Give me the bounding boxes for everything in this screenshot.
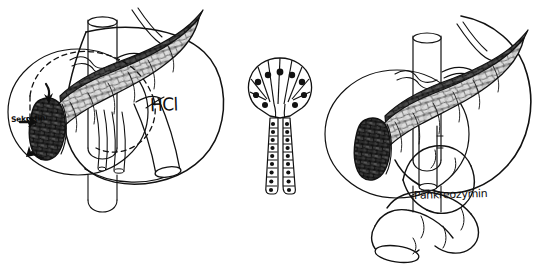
duct-tube-2 xyxy=(112,112,115,170)
nucleus xyxy=(253,92,259,98)
duct-nucleus xyxy=(286,162,290,166)
intestine-fold-2 xyxy=(451,158,456,176)
duct-nucleus xyxy=(285,138,289,142)
duct-branch-right xyxy=(283,118,295,194)
duct-nucleus xyxy=(269,188,273,192)
nucleus xyxy=(255,79,261,85)
nucleus xyxy=(289,72,295,78)
nucleus xyxy=(301,92,307,98)
duct-nucleus xyxy=(286,154,290,158)
duct-nucleus xyxy=(287,179,291,183)
duct-nucleus xyxy=(286,170,290,174)
duct-nucleus xyxy=(270,170,274,174)
aorta-bottom xyxy=(88,148,117,159)
duct-tube-1-end xyxy=(98,167,106,171)
duct-branch-left xyxy=(266,118,278,194)
pancreas-head-dark-right xyxy=(354,118,390,180)
vessel-top-arc-r2 xyxy=(463,22,487,51)
duct-nucleus xyxy=(270,154,274,158)
duct-tube-1 xyxy=(96,110,99,168)
nucleus xyxy=(265,72,271,78)
secretin-panel-drawing xyxy=(0,0,250,277)
duct-nucleus xyxy=(271,130,275,134)
pancreozymin-panel: Pankreozymin xyxy=(315,0,555,277)
aorta-top-ellipse xyxy=(88,17,117,27)
hcl-label: HCl xyxy=(150,94,179,116)
secretin-panel: Sekretin HCl xyxy=(0,0,250,277)
intestine-fold-3 xyxy=(461,208,464,230)
nucleus xyxy=(292,102,298,108)
pancreas-head-dark xyxy=(29,98,65,160)
nucleus xyxy=(277,69,284,76)
duct-nucleus xyxy=(287,188,291,192)
nucleus xyxy=(262,102,268,108)
intestine-loop-2-right xyxy=(435,214,479,253)
figure-canvas: Sekretin HCl xyxy=(0,0,555,277)
vessel-top-arc2 xyxy=(138,8,162,37)
pancreozymin-panel-drawing xyxy=(315,0,555,277)
duct-nucleus xyxy=(269,179,273,183)
duct-tube-2-end xyxy=(114,169,124,173)
duct-nucleus xyxy=(285,122,289,126)
aorta-lower-end xyxy=(88,200,117,212)
acinus-drawing xyxy=(240,0,320,277)
intestine-fold-5 xyxy=(421,216,424,238)
nucleus xyxy=(299,79,305,85)
pancreozymin-label: Pankreozymin xyxy=(414,187,488,202)
duct-nucleus xyxy=(286,146,290,150)
duodenum-open-end xyxy=(154,165,181,179)
duct-nucleus xyxy=(270,162,274,166)
secretin-label: Sekretin xyxy=(11,113,46,124)
intestine-fold-1 xyxy=(431,150,436,168)
duct-nucleus xyxy=(271,138,275,142)
aorta-top-ellipse-r xyxy=(413,33,441,43)
duct-nucleus xyxy=(285,130,289,134)
duct-nucleus xyxy=(271,122,275,126)
duct-nucleus xyxy=(270,146,274,150)
acinus-panel xyxy=(240,0,320,277)
